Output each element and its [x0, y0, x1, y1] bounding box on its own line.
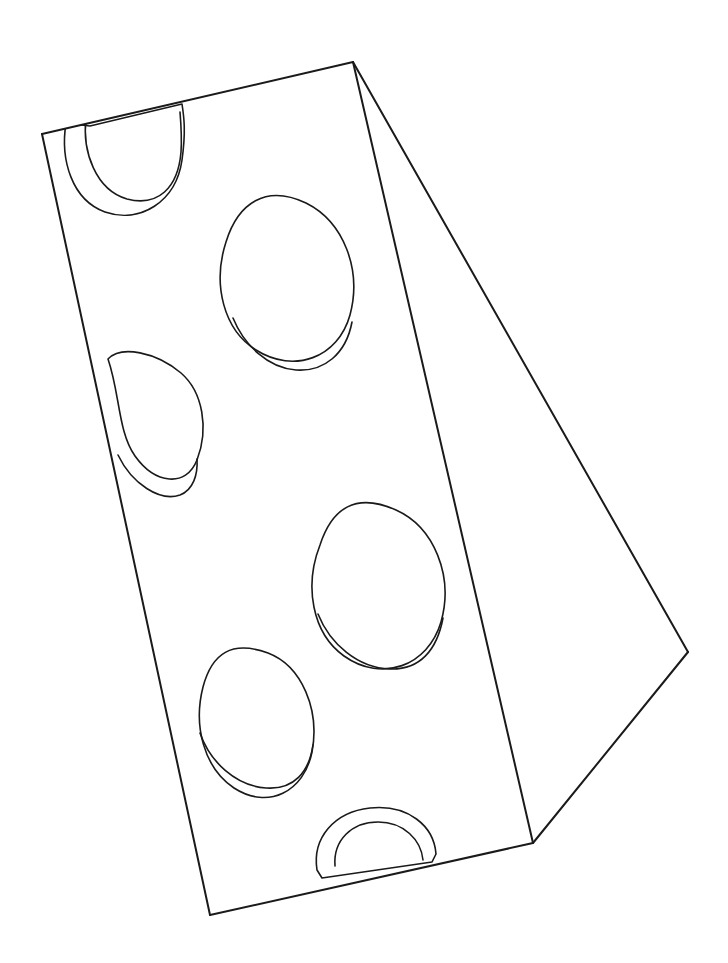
drawing-canvas: [0, 0, 728, 963]
line-drawing-figure: [0, 0, 728, 963]
